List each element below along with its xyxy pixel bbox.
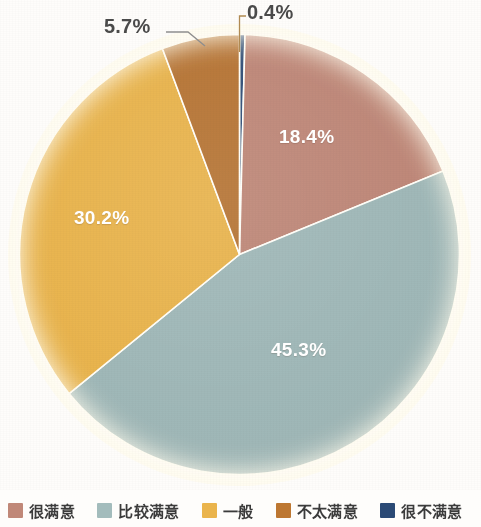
legend-item-label: 很满意 xyxy=(29,500,75,521)
legend-item-label: 一般 xyxy=(223,500,254,521)
legend-item[interactable]: 一般 xyxy=(202,500,254,521)
slice-label-very-satisfied: 18.4% xyxy=(279,126,334,148)
slice-label-very-unsatisfied: 0.4% xyxy=(247,1,293,24)
slice-label-not-very-satisfied: 5.7% xyxy=(104,15,150,38)
pie-sheen-overlay xyxy=(20,35,460,475)
pie-svg xyxy=(18,33,461,476)
legend-item[interactable]: 不太满意 xyxy=(276,500,359,521)
pie-chart-graphic xyxy=(18,33,461,476)
legend-swatch-icon xyxy=(97,503,112,518)
legend-item-label: 比较满意 xyxy=(118,500,180,521)
legend-swatch-icon xyxy=(202,503,217,518)
pie-chart-figure: 18.4% 45.3% 30.2% 0.4% 5.7% xyxy=(0,0,481,490)
legend-item-label: 不太满意 xyxy=(297,500,359,521)
slice-label-fairly-satisfied: 45.3% xyxy=(271,339,326,361)
slice-label-average: 30.2% xyxy=(74,207,129,229)
legend-item[interactable]: 很不满意 xyxy=(380,500,463,521)
legend-swatch-icon xyxy=(8,503,23,518)
legend-swatch-icon xyxy=(276,503,291,518)
legend-swatch-icon xyxy=(380,503,395,518)
chart-legend: 很满意比较满意一般不太满意很不满意 xyxy=(0,494,481,527)
legend-item[interactable]: 很满意 xyxy=(8,500,75,521)
legend-item-label: 很不满意 xyxy=(401,500,463,521)
legend-item[interactable]: 比较满意 xyxy=(97,500,180,521)
